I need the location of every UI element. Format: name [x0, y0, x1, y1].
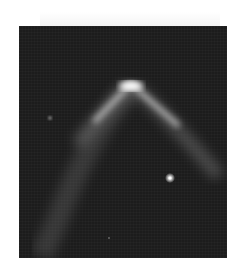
bright-star-core [168, 176, 171, 179]
caption-remnant [40, 12, 220, 26]
faint-star-2 [108, 237, 110, 239]
faint-star [48, 116, 52, 120]
arc-scene [19, 26, 227, 258]
tail-glow [41, 88, 131, 256]
arc-apex [119, 81, 143, 91]
astronomical-image [19, 26, 227, 258]
